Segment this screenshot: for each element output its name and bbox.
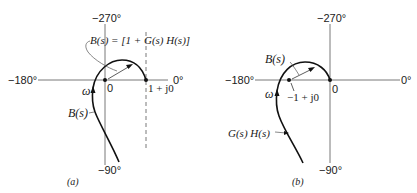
a-point-label: 1 + j0 [148,82,174,94]
b-nyquist-curve [276,62,330,163]
a-caption: (a) [67,176,79,188]
a-vector-arrow [108,66,130,79]
a-vector-arrowhead-icon [126,64,133,69]
a-omega-arrow-icon [91,86,96,93]
b-origin-label: 0 [332,83,338,95]
b-point-leader [291,83,294,91]
a-origin-label: 0 [107,82,113,94]
b-omega-arrow-icon [275,89,280,96]
b-label-left: −180° [225,74,254,86]
b-caption: (b) [292,176,304,188]
a-label-top: −270° [92,12,121,24]
a-label-left: −180° [8,74,37,86]
b-curve-label: G(s) H(s) [228,127,270,139]
b-vector-arrow [292,69,312,79]
b-label-bottom: −90° [319,164,342,176]
a-nyquist-curve [92,60,146,162]
a-label-right: 0° [173,74,184,86]
b-point-dot [287,78,291,82]
a-omega-label: ω [82,85,90,97]
a-curve-label: B(s) [68,107,88,119]
a-label-bottom-text: −90° [98,164,121,176]
b-vector-label: B(s) [265,53,285,65]
b-vector-arrowhead-icon [308,67,315,72]
diagram-canvas [0,0,417,193]
a-equation-label: B(s) = [1 + G(s) H(s)] [90,34,190,46]
b-point-label: −1 + j0 [287,91,319,103]
b-label-right: 0° [401,74,412,86]
a-bs-leader [89,112,94,113]
b-label-top: −270° [317,12,346,24]
b-origin-dot [328,78,332,82]
b-omega-label: ω [265,88,273,100]
